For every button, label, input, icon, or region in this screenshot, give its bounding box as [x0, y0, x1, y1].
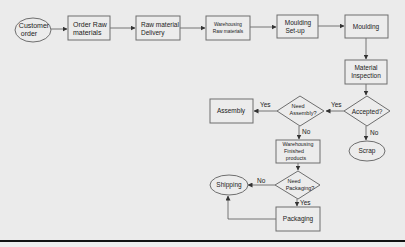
flowchart-canvas: Yes No Yes No No Yes Customer order Orde…	[0, 0, 405, 247]
svg-text:Raw materials: Raw materials	[213, 29, 244, 34]
node-moulding: Moulding	[345, 15, 388, 38]
node-need-packaging-decision: Need Packaging?	[275, 171, 320, 199]
svg-text:Packaging?: Packaging?	[286, 185, 315, 191]
node-packaging: Packaging	[276, 207, 320, 231]
label-accepted-no: No	[370, 129, 379, 136]
svg-text:Inspection: Inspection	[351, 72, 381, 80]
svg-text:Need: Need	[291, 103, 304, 109]
edges	[51, 26, 366, 219]
node-raw-material-delivery: Raw material Delivery	[136, 16, 180, 40]
svg-text:Assembly?: Assembly?	[290, 110, 317, 116]
node-need-assembly-decision: Need Assembly?	[277, 96, 324, 126]
node-assembly: Assembly	[210, 99, 253, 123]
svg-text:products: products	[286, 155, 307, 161]
svg-text:Material: Material	[354, 64, 378, 71]
label-assembly-yes: Yes	[260, 101, 271, 108]
svg-text:Assembly: Assembly	[217, 107, 246, 115]
edge-packaging-to-shipping	[228, 196, 276, 219]
flowchart-svg: Yes No Yes No No Yes Customer order Orde…	[0, 0, 405, 247]
svg-text:Order Raw: Order Raw	[73, 21, 108, 28]
label-accepted-yes: Yes	[331, 101, 342, 108]
svg-text:Scrap: Scrap	[359, 147, 376, 155]
svg-text:Moulding: Moulding	[285, 19, 312, 27]
node-shipping: Shipping	[210, 175, 248, 195]
node-accepted-decision: Accepted?	[344, 96, 390, 126]
label-packaging-no: No	[257, 177, 266, 184]
svg-text:Delivery: Delivery	[141, 29, 165, 37]
svg-text:Moulding: Moulding	[353, 23, 380, 31]
svg-text:Raw material: Raw material	[141, 21, 179, 28]
label-assembly-no: No	[302, 128, 311, 135]
svg-text:Accepted?: Accepted?	[352, 108, 383, 116]
svg-text:Shipping: Shipping	[216, 181, 242, 189]
node-scrap: Scrap	[349, 141, 385, 161]
node-warehousing-raw-materials: Warehousing Raw materials	[206, 16, 250, 40]
node-customer-order: Customer order	[15, 18, 51, 42]
svg-text:Need: Need	[287, 178, 300, 184]
svg-text:order: order	[21, 30, 38, 37]
svg-text:Packaging: Packaging	[283, 215, 314, 223]
svg-text:Set-up: Set-up	[285, 27, 305, 35]
node-warehousing-finished-products: Warehousing Finished products	[276, 140, 320, 163]
svg-text:Warehousing: Warehousing	[214, 22, 242, 27]
node-order-raw-materials: Order Raw materials	[68, 16, 110, 40]
bottom-strip	[0, 242, 405, 247]
svg-text:materials: materials	[73, 29, 102, 36]
node-material-inspection: Material Inspection	[345, 60, 387, 84]
svg-text:Customer: Customer	[19, 22, 50, 29]
svg-text:Finished: Finished	[284, 148, 304, 154]
label-packaging-yes: Yes	[300, 199, 311, 206]
node-moulding-setup: Moulding Set-up	[277, 15, 318, 38]
svg-text:Warehousing: Warehousing	[282, 141, 313, 147]
